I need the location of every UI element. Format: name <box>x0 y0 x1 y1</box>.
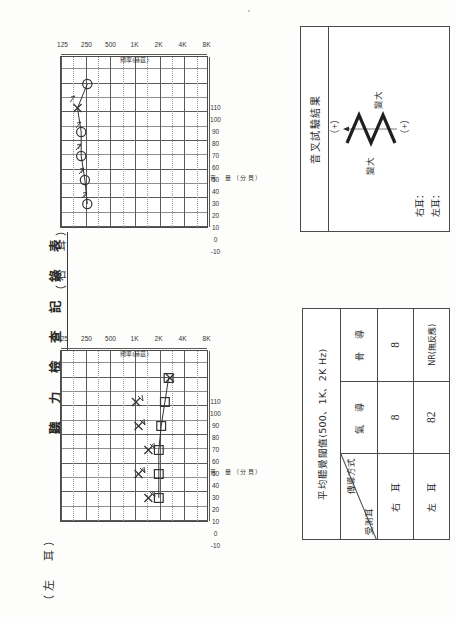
scan-speckle <box>248 10 250 12</box>
db-tick: 60 <box>207 458 225 465</box>
tuning-fork-left-ear-label: 左耳： <box>429 190 442 217</box>
table-row-label-left-ear: 左 耳 <box>413 454 449 540</box>
left-ear-bone-value: NR(無反應) <box>413 309 449 382</box>
hz-tick: 1K <box>125 41 145 48</box>
hz-tick: 4K <box>173 335 193 342</box>
hz-tick: 125 <box>53 335 73 342</box>
hz-tick: 500 <box>101 41 121 48</box>
db-tick: 60 <box>207 164 225 171</box>
right-ear-bone-value: 8 <box>377 309 413 382</box>
db-tick: -10 <box>207 542 225 549</box>
db-tick: 20 <box>207 212 225 219</box>
db-axis-title: 音 量（分貝） <box>210 173 263 182</box>
hz-tick: 250 <box>77 335 97 342</box>
hz-tick: 250 <box>77 41 97 48</box>
db-axis-title: 音 量（分貝） <box>210 467 263 476</box>
db-tick: 100 <box>207 410 225 417</box>
db-tick: 0 <box>207 530 225 537</box>
db-tick: -10 <box>207 248 225 255</box>
db-tick: 80 <box>207 140 225 147</box>
table-row: 左 耳 82 NR(無反應) <box>413 309 449 540</box>
average-threshold-table: 平均聽覺閾值(500、1K、2K Hz) 傳導方式 受測耳 氣 導 骨 導 右 … <box>302 308 450 540</box>
document-page: 聽 力 檢 查 記 錄 表 （右 耳） （左 耳） <box>0 0 456 617</box>
db-tick: 110 <box>207 398 225 405</box>
table-column-header-row: 傳導方式 受測耳 氣 導 骨 導 <box>341 309 377 540</box>
db-tick: 100 <box>207 116 225 123</box>
table-row: 右 耳 8 8 <box>377 309 413 540</box>
tuning-fork-figure: （+） （+） 變大 變大 <box>339 69 403 189</box>
db-tick: 30 <box>207 200 225 207</box>
hz-tick: 125 <box>53 41 73 48</box>
hz-axis-title: 頻率(赫茲) <box>120 349 149 358</box>
tuning-fork-result-box: 音叉試驗結果 （+） （+） 變大 變大 右耳： 左耳： <box>300 26 450 232</box>
left-ear-air-value: 82 <box>413 381 449 454</box>
left-ear-nr-line <box>159 378 169 498</box>
db-tick: 110 <box>207 104 225 111</box>
db-tick: 40 <box>207 482 225 489</box>
table-header-row: 平均聽覺閾值(500、1K、2K Hz) <box>303 309 341 540</box>
table-col-air-conduction: 氣 導 <box>341 381 377 454</box>
table-corner-lower-label: 受測耳 <box>362 508 374 535</box>
tuning-fork-title: 音叉試驗結果 <box>307 27 322 231</box>
db-tick: 70 <box>207 152 225 159</box>
audiogram-marks-right <box>60 56 208 228</box>
db-tick: 10 <box>207 224 225 231</box>
db-tick: 40 <box>207 188 225 195</box>
right-ear-plot-svg <box>60 56 208 228</box>
left-ear-no-response-arrows <box>138 395 155 497</box>
db-tick: 10 <box>207 518 225 525</box>
db-tick: 0 <box>207 236 225 243</box>
db-tick: 90 <box>207 128 225 135</box>
table-col-bone-conduction: 骨 導 <box>341 309 377 382</box>
table-row-label-right-ear: 右 耳 <box>377 454 413 540</box>
threshold-table-header: 平均聽覺閾值(500、1K、2K Hz) <box>303 309 341 540</box>
db-tick: 20 <box>207 506 225 513</box>
db-tick: 30 <box>207 494 225 501</box>
hz-tick: 2K <box>149 335 169 342</box>
tuning-fork-louder-left: 變大 <box>363 157 375 175</box>
table-corner-cell: 傳導方式 受測耳 <box>341 454 377 540</box>
hz-tick: 4K <box>173 41 193 48</box>
right-ear-ac-line <box>78 84 88 204</box>
tuning-fork-louder-right: 變大 <box>371 91 383 109</box>
threshold-table: 平均聽覺閾值(500、1K、2K Hz) 傳導方式 受測耳 氣 導 骨 導 右 … <box>302 308 450 540</box>
right-ear-ac-markers <box>77 79 92 208</box>
hz-axis-title: 頻率(赫茲) <box>120 55 149 64</box>
left-ear-nr-markers <box>154 374 173 503</box>
right-ear-air-value: 8 <box>377 381 413 454</box>
hz-tick: 8K <box>197 41 217 48</box>
tuning-fork-plus-top: （+） <box>327 114 341 139</box>
tuning-fork-right-ear-label: 右耳： <box>413 190 426 217</box>
left-ear-caption: （左 耳） <box>40 531 56 606</box>
hz-tick: 1K <box>125 335 145 342</box>
db-tick: 70 <box>207 446 225 453</box>
hz-tick: 2K <box>149 41 169 48</box>
tuning-fork-plus-bottom: （+） <box>397 114 411 139</box>
db-tick: 90 <box>207 422 225 429</box>
left-ear-ac-markers <box>132 374 174 502</box>
hz-tick: 500 <box>101 335 121 342</box>
audiogram-marks-left <box>60 350 208 522</box>
audiogram-right-ear: -10 0 10 20 30 40 50 60 70 80 90 100 110… <box>60 54 230 250</box>
left-ear-plot-svg <box>60 350 208 522</box>
audiogram-left-ear: -10 0 10 20 30 40 50 60 70 80 90 100 110… <box>60 348 230 544</box>
hz-tick: 8K <box>197 335 217 342</box>
table-corner-upper-label: 傳導方式 <box>344 458 356 494</box>
db-tick: 80 <box>207 434 225 441</box>
